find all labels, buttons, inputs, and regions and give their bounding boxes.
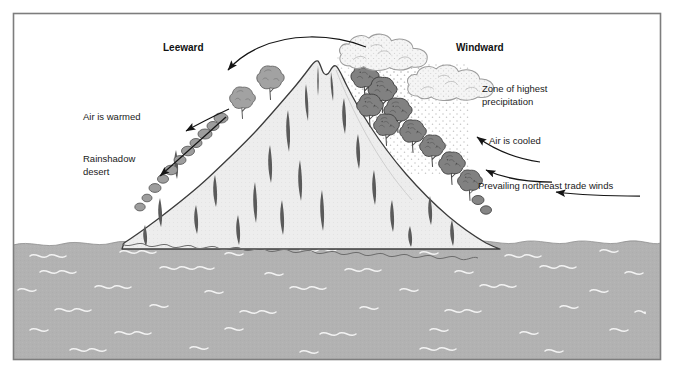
label-rainshadow-line1: Rainshadow xyxy=(83,153,135,164)
diagram-canvas: Leeward Windward Air is warmed Rainshado… xyxy=(0,0,674,373)
ocean-surface xyxy=(13,241,661,360)
label-windward: Windward xyxy=(456,42,504,53)
label-air-is-warmed: Air is warmed xyxy=(83,111,141,122)
orographic-diagram-figure: Leeward Windward Air is warmed Rainshado… xyxy=(0,0,674,373)
label-zone-line1: Zone of highest xyxy=(482,83,548,94)
label-air-is-cooled: Air is cooled xyxy=(489,135,541,146)
diagram-content: Leeward Windward Air is warmed Rainshado… xyxy=(13,13,661,360)
label-zone-line2: precipitation xyxy=(482,96,533,107)
label-trade-winds: Prevailing northeast trade winds xyxy=(478,180,613,191)
label-leeward: Leeward xyxy=(163,42,204,53)
ocean-water xyxy=(13,241,661,360)
label-rainshadow-line2: desert xyxy=(83,166,110,177)
